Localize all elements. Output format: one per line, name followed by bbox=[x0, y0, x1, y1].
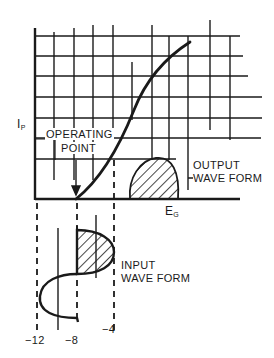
operating-point-arrow bbox=[72, 150, 80, 195]
operating-point-label-line2: POINT bbox=[60, 142, 97, 154]
x-axis-label: EG bbox=[165, 205, 179, 221]
output-wave-form-label-line2: WAVE FORM bbox=[193, 172, 262, 184]
x-tick-minus-8: −8 bbox=[65, 334, 78, 346]
input-wave-form-lower bbox=[40, 274, 78, 322]
operating-point-label-line1: OPERATING bbox=[45, 128, 114, 140]
label-box bbox=[35, 139, 55, 160]
x-tick-minus-12: −12 bbox=[25, 334, 45, 346]
grid-horizontal-lines bbox=[35, 36, 262, 178]
y-axis-label: IP bbox=[17, 118, 26, 134]
x-tick-minus-4: −4 bbox=[102, 323, 115, 335]
input-wave-form-upper bbox=[77, 230, 114, 274]
output-wave-form bbox=[130, 158, 179, 199]
input-wave-form-label-line2: WAVE FORM bbox=[121, 272, 190, 284]
input-wave-form-label-line1: INPUT bbox=[121, 259, 156, 271]
diagram-canvas: IP EG OPERATING POINT OUTPUT WAVE FORM I… bbox=[0, 0, 274, 358]
output-wave-form-label-line1: OUTPUT bbox=[193, 159, 240, 171]
